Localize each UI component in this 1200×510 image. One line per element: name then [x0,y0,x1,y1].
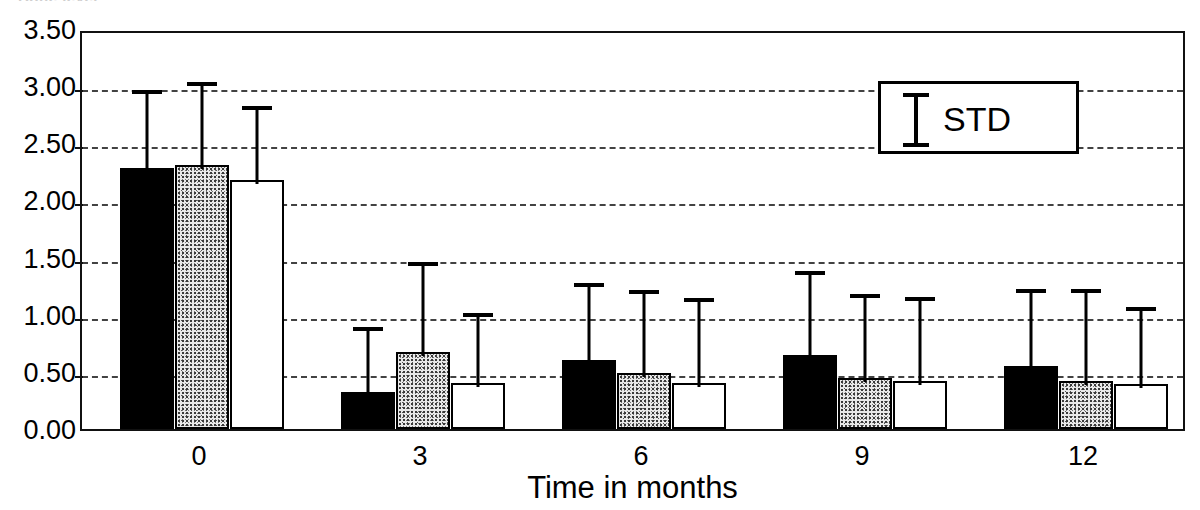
y-tick-mark [75,147,83,149]
error-bar-bottom-cap [903,143,929,147]
y-axis-labels: 3.503.002.502.001.501.000.500.00 [0,0,76,510]
error-bar-stem [809,271,812,359]
legend-box: STD [878,81,1079,154]
error-bar-stem [919,297,922,385]
error-bar-stem [1030,289,1033,370]
bar-chart-figure: Bone level 3.503.002.502.001.501.000.500… [0,0,1200,510]
error-bar-symbol-icon [903,93,929,147]
x-tick-label: 6 [633,441,648,471]
bar [783,355,837,429]
error-bar-stem [864,294,867,382]
bar [1114,384,1168,429]
y-tick-label: 2.50 [4,131,76,158]
x-tick-label: 3 [412,441,427,471]
bar [893,381,947,429]
y-tick-mark [75,262,83,264]
error-bar-cap [408,262,438,266]
error-bar-cap [574,283,604,287]
error-bar-cap [132,90,162,94]
bar [562,360,616,429]
y-tick-label: 2.00 [4,188,76,215]
error-bar-stem [1085,289,1088,385]
error-bar-stem [1140,307,1143,388]
error-bar-cap [353,327,383,331]
y-tick-label: 3.50 [4,17,76,44]
bar [1004,366,1058,429]
bar [672,383,726,429]
bar [617,373,671,429]
error-bar-stem [643,290,646,377]
x-axis-title: Time in months [80,470,1185,506]
bar [341,392,395,429]
y-tick-label: 0.00 [4,417,76,444]
bar [120,168,174,429]
bar [175,165,229,429]
y-tick-label: 3.00 [4,74,76,101]
bar [396,352,450,429]
x-tick-label: 12 [1068,441,1098,471]
x-tick-label: 9 [854,441,869,471]
legend-label-std: STD [943,92,1011,146]
error-bar-cap [1071,289,1101,293]
y-tick-mark [75,319,83,321]
error-bar-stem [914,93,918,147]
error-bar-cap [1126,307,1156,311]
y-tick-label: 1.00 [4,303,76,330]
error-bar-stem [146,90,149,172]
error-bar-stem [201,82,204,169]
y-tick-mark [75,376,83,378]
error-bar-cap [684,298,714,302]
bar [838,378,892,429]
error-bar-stem [256,106,259,184]
error-bar-stem [422,262,425,357]
x-tick-label: 0 [191,441,206,471]
error-bar-stem [477,313,480,387]
bar [230,180,284,429]
error-bar-stem [367,327,370,397]
error-bar-cap [463,313,493,317]
y-tick-mark [75,90,83,92]
y-tick-label: 1.50 [4,246,76,273]
bar [1059,381,1113,429]
error-bar-cap [850,294,880,298]
error-bar-cap [1016,289,1046,293]
error-bar-stem [588,283,591,364]
y-tick-label: 0.50 [4,360,76,387]
error-bar-cap [795,271,825,275]
error-bar-cap [242,106,272,110]
error-bar-cap [187,82,217,86]
y-tick-mark [75,204,83,206]
error-bar-cap [905,297,935,301]
error-bar-stem [698,298,701,387]
bar [451,383,505,429]
error-bar-cap [629,290,659,294]
